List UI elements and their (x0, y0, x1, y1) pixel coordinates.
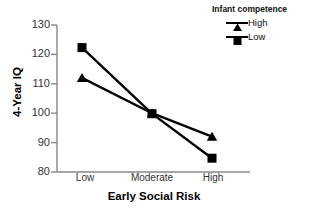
legend-label-high: High (248, 18, 268, 28)
y-axis-ticks (51, 25, 57, 172)
legend-title: Infant competence (212, 4, 315, 14)
legend-label-low: Low (248, 32, 265, 42)
triangle-marker-icon (77, 73, 87, 82)
legend-swatch-high (226, 18, 248, 28)
square-marker-icon (208, 154, 217, 163)
legend-item-high: High (212, 18, 315, 28)
y-tick-label: 80 (20, 166, 50, 177)
y-tick-label: 90 (20, 137, 50, 148)
x-tick-label-moderate: Moderate (131, 172, 173, 183)
square-marker-icon (233, 32, 242, 50)
series-high (77, 73, 217, 141)
legend: Infant competence High (212, 4, 315, 42)
y-axis-title: 4-Year IQ (11, 52, 23, 132)
legend-item-low: Low (212, 32, 315, 42)
y-tick-label: 120 (20, 48, 50, 59)
chart-figure: 130 120 110 100 90 80 Low Moderate High … (0, 0, 315, 215)
x-tick-label-low: Low (76, 172, 94, 183)
legend-swatch-low (226, 32, 248, 42)
y-tick-label: 100 (20, 107, 50, 118)
series-low-line (82, 48, 212, 159)
series-low (78, 43, 217, 163)
square-marker-icon (78, 43, 87, 52)
series-high-line (82, 78, 212, 137)
y-tick-label: 130 (20, 19, 50, 30)
y-tick-label: 110 (20, 78, 50, 89)
x-axis-title: Early Social Risk (57, 190, 251, 202)
x-tick-label-high: High (203, 172, 224, 183)
